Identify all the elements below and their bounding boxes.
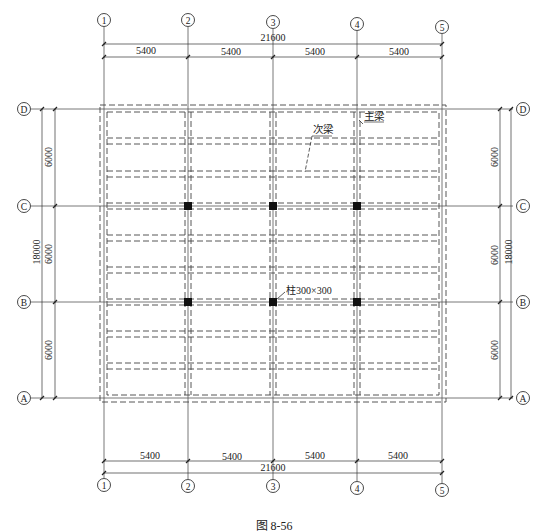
right-span-dim-1: 6000 xyxy=(489,147,500,167)
bottom-total-dim: 21600 xyxy=(261,462,286,473)
axis-bubble-2-top: 2 xyxy=(186,16,191,26)
horizontal-axis-lines xyxy=(31,109,513,398)
axis-bubble-D-left: D xyxy=(21,105,28,115)
bottom-span-dim-2: 5400 xyxy=(222,451,242,462)
framing-plan-drawing: 21600 5400 5400 5400 5400 5400 5400 5400… xyxy=(0,0,548,532)
top-span-dim-2: 5400 xyxy=(221,46,241,57)
bottom-span-dim-4: 5400 xyxy=(388,450,408,461)
right-dimensions: 6000 6000 18000 6000 xyxy=(489,107,514,400)
axis-bubble-2-bottom: 2 xyxy=(186,482,191,492)
column-4C xyxy=(353,202,361,210)
top-total-dim: 21600 xyxy=(261,32,286,43)
top-span-dim-1: 5400 xyxy=(136,45,156,56)
left-span-dim-1: 6000 xyxy=(43,147,54,167)
vertical-axis-lines xyxy=(104,27,442,483)
column-2B xyxy=(184,298,192,306)
axis-bubble-B-left: B xyxy=(21,298,27,308)
axis-bubble-A-left: A xyxy=(21,394,28,404)
axis-bubble-C-right: C xyxy=(520,202,526,212)
axis-bubble-4-bottom: 4 xyxy=(355,484,360,494)
secondary-beam-label: 次梁 xyxy=(313,123,334,135)
left-axis-bubbles: D C B A xyxy=(18,103,31,405)
axis-bubble-1-bottom: 1 xyxy=(102,481,107,491)
left-span-dim-2: 6000 xyxy=(43,244,54,264)
column-4B xyxy=(353,298,361,306)
column-3B xyxy=(269,298,277,306)
axis-bubble-4-top: 4 xyxy=(355,20,360,30)
axis-bubble-3-top: 3 xyxy=(271,18,276,28)
axis-bubble-5-top: 5 xyxy=(440,23,445,33)
bottom-axis-bubbles: 1 2 3 4 5 xyxy=(98,479,449,497)
axis-bubble-D-right: D xyxy=(520,105,527,115)
axis-bubble-A-right: A xyxy=(520,394,527,404)
right-span-dim-2: 6000 xyxy=(489,245,500,265)
left-dimensions: 6000 6000 18000 6000 xyxy=(31,107,57,400)
axis-bubble-3-bottom: 3 xyxy=(271,482,276,492)
bottom-span-dim-1: 5400 xyxy=(140,450,160,461)
figure-caption: 图 8-56 xyxy=(0,516,548,532)
axis-bubble-C-left: C xyxy=(21,202,27,212)
bottom-span-dim-3: 5400 xyxy=(305,450,325,461)
top-span-dim-4: 5400 xyxy=(389,46,409,57)
left-span-dim-3: 6000 xyxy=(43,340,54,360)
right-span-dim-3: 6000 xyxy=(489,340,500,360)
column-2C xyxy=(184,202,192,210)
columns xyxy=(184,202,361,306)
column-3C xyxy=(269,202,277,210)
top-span-dim-3: 5400 xyxy=(305,46,325,57)
axis-bubble-B-right: B xyxy=(520,298,526,308)
right-axis-bubbles: D C B A xyxy=(517,103,530,405)
axis-bubble-1-top: 1 xyxy=(102,16,107,26)
left-total-dim: 18000 xyxy=(31,240,42,265)
axis-bubble-5-bottom: 5 xyxy=(440,486,445,496)
right-total-dim: 18000 xyxy=(503,240,514,265)
main-beam-label: 主梁 xyxy=(364,110,385,122)
column-label: 柱300×300 xyxy=(286,284,332,296)
